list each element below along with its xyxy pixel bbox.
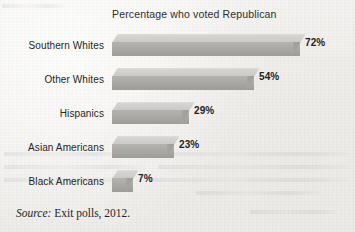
source-text: Exit polls, 2012. xyxy=(51,207,130,219)
bar-asian-americans[interactable] xyxy=(112,136,174,158)
category-label: Hispanics xyxy=(0,108,104,119)
bar-row: Asian Americans 23% xyxy=(0,132,355,166)
bar-front-face xyxy=(112,76,254,90)
category-label: Asian Americans xyxy=(0,142,104,153)
category-label: Black Americans xyxy=(0,176,104,187)
source-label: Source: xyxy=(16,207,51,219)
bar-front-face xyxy=(112,42,300,56)
category-label: Southern Whites xyxy=(0,40,104,51)
bar-hispanics[interactable] xyxy=(112,102,189,124)
value-label: 7% xyxy=(138,173,153,184)
plot-area: Southern Whites 72% Other Whites 54% His… xyxy=(0,30,355,202)
bar-front-face xyxy=(112,144,174,158)
source-note: Source: Exit polls, 2012. xyxy=(16,207,130,219)
bar-southern-whites[interactable] xyxy=(112,34,300,56)
category-label: Other Whites xyxy=(0,74,104,85)
bar-row: Other Whites 54% xyxy=(0,64,355,98)
bar-chart-figure: Percentage who voted Republican Southern… xyxy=(0,0,355,232)
value-label: 72% xyxy=(305,37,325,48)
bar-front-face xyxy=(112,110,189,124)
value-label: 23% xyxy=(179,139,199,150)
value-label: 29% xyxy=(194,105,214,116)
bar-black-americans[interactable] xyxy=(112,170,133,192)
bar-row: Hispanics 29% xyxy=(0,98,355,132)
bar-row: Black Americans 7% xyxy=(0,166,355,200)
value-label: 54% xyxy=(259,71,279,82)
chart-title: Percentage who voted Republican xyxy=(112,8,350,20)
bar-other-whites[interactable] xyxy=(112,68,254,90)
bar-row: Southern Whites 72% xyxy=(0,30,355,64)
